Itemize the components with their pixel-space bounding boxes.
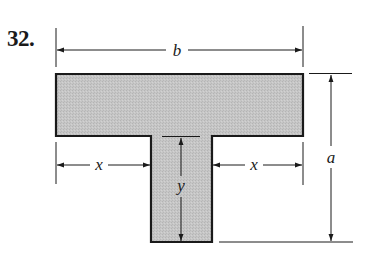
dimension-b: b bbox=[56, 26, 303, 67]
dimension-label-b: b bbox=[173, 41, 182, 60]
dimension-label-a: a bbox=[327, 148, 336, 167]
t-section-shape bbox=[56, 74, 303, 242]
dimension-x-right: x bbox=[213, 142, 303, 185]
dimension-label-y: y bbox=[175, 176, 185, 195]
dimension-x-left: x bbox=[56, 142, 150, 184]
dimension-label-x-right: x bbox=[249, 155, 258, 174]
dimension-label-x-left: x bbox=[94, 155, 103, 174]
t-section-figure: b a x x y bbox=[0, 0, 367, 253]
